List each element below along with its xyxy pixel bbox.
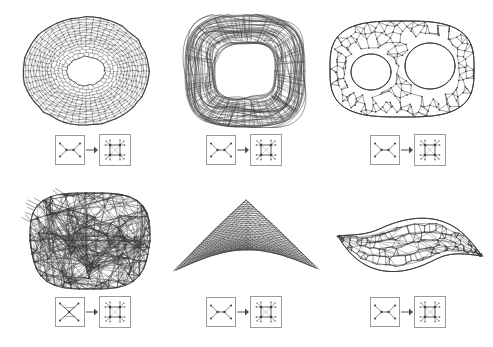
tangled-blob-drawing — [20, 188, 160, 294]
legend-top-middle — [206, 134, 282, 166]
legend-top-right — [370, 134, 446, 166]
triangular-dome-mesh-drawing — [172, 196, 320, 288]
legend-arrow-top-middle — [236, 135, 250, 165]
legend-result-box-top-middle — [250, 134, 282, 166]
legend-arrow-top-right — [400, 135, 414, 165]
caption-sliver — [0, 0, 493, 9]
rounded-square-ring-drawing — [178, 14, 312, 128]
legend-top-left — [55, 134, 131, 166]
legend-result-box-top-right — [414, 134, 446, 166]
legend-bottom-middle — [206, 296, 282, 328]
legend-source-box-bottom-right — [370, 297, 400, 327]
legend-source-box-top-middle — [206, 135, 236, 165]
legend-arrow-top-left — [85, 135, 99, 165]
legend-result-box-top-left — [99, 134, 131, 166]
legend-result-box-bottom-left — [99, 296, 131, 328]
legend-result-box-bottom-middle — [250, 296, 282, 328]
legend-arrow-bottom-left — [85, 297, 99, 327]
torus-dense-mesh-drawing — [18, 12, 154, 130]
legend-arrow-bottom-right — [400, 297, 414, 327]
legend-arrow-bottom-middle — [236, 297, 250, 327]
double-torus-mesh-drawing — [324, 16, 480, 122]
legend-source-box-bottom-left — [55, 297, 85, 327]
legend-source-box-top-right — [370, 135, 400, 165]
legend-bottom-right — [370, 296, 446, 328]
legend-source-box-bottom-middle — [206, 297, 236, 327]
legend-bottom-left — [55, 296, 131, 328]
figure-canvas — [0, 0, 493, 347]
legend-source-box-top-left — [55, 135, 85, 165]
legend-result-box-bottom-right — [414, 296, 446, 328]
leaf-lens-mesh-drawing — [332, 200, 488, 292]
